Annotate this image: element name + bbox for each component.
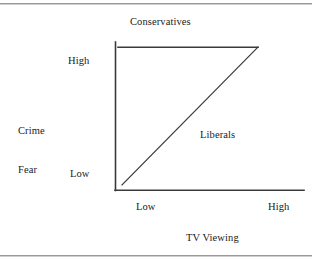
liberals-series-label: Liberals <box>200 128 235 141</box>
x-axis-tick-label-high: High <box>268 200 289 213</box>
y-axis-title-line-1: Crime <box>18 124 45 137</box>
liberals-series-line <box>122 47 258 185</box>
conservatives-series-label: Conservatives <box>130 15 191 28</box>
x-axis-tick-label-low: Low <box>136 200 156 213</box>
y-axis-title-line-2: Fear <box>18 163 45 176</box>
plot-area <box>0 0 312 263</box>
y-axis-tick-label-low: Low <box>70 167 90 180</box>
y-axis-title: Crime Fear <box>18 98 45 202</box>
x-axis-title: TV Viewing <box>186 231 239 244</box>
y-axis-tick-label-high: High <box>68 54 89 67</box>
figure-container: Conservatives High Low Crime Fear Libera… <box>0 0 312 263</box>
